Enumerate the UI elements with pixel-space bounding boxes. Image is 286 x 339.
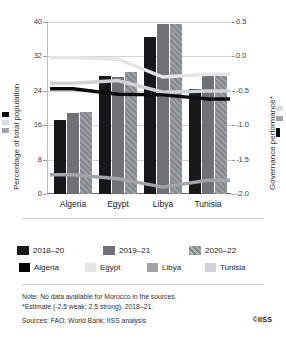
lines-layer — [48, 22, 232, 194]
x-label-tunisia: Tunisia — [188, 199, 228, 209]
left-tick-8: 8 — [16, 156, 42, 164]
legend-bars: 2018–20 2019–21 2020–22 — [0, 246, 286, 255]
tick-dash — [43, 194, 47, 195]
legend-swatch-egypt-icon — [85, 263, 96, 272]
legend-item-egypt[interactable]: Egypt — [85, 263, 147, 272]
footer: Note: No data available for Morocco in t… — [22, 292, 272, 326]
legend-swatch-libya-icon — [147, 263, 158, 272]
left-tick-24: 24 — [16, 87, 42, 95]
left-tick-32: 32 — [16, 52, 42, 60]
legend-label-algeria: Algeria — [34, 263, 59, 272]
legend-item-algeria[interactable]: Algeria — [19, 263, 85, 272]
legend-item-2018-20[interactable]: 2018–20 — [17, 246, 103, 255]
legend-item-libya[interactable]: Libya — [147, 263, 205, 272]
left-axis-title: Percentage of total population — [12, 84, 21, 190]
legend-item-2019-21[interactable]: 2019–21 — [103, 246, 189, 255]
legend-divider-bottom — [22, 284, 264, 285]
legend-swatch-algeria-icon — [19, 263, 30, 272]
footnote-note: Note: No data available for Morocco in t… — [22, 292, 272, 302]
line-egypt — [50, 58, 230, 77]
mini-swatch-4 — [276, 106, 283, 111]
tick-dash — [231, 194, 235, 195]
legend-divider-top — [22, 218, 264, 219]
left-tick-0: 0 — [16, 190, 42, 198]
right-tick-neg-1-0: -1.0 — [236, 121, 266, 129]
right-tick-neg-2-0: -2.0 — [236, 190, 266, 198]
legend-label-tunisia: Tunisia — [220, 263, 246, 272]
mini-swatch-5 — [276, 116, 283, 121]
sources-text: Sources: FAO; World Bank; IISS analysis — [22, 317, 146, 324]
legend-swatch-tunisia-icon — [205, 263, 216, 272]
legend-item-tunisia[interactable]: Tunisia — [205, 263, 267, 272]
mini-swatch-3 — [2, 128, 9, 133]
legend-label-2020-22: 2020–22 — [205, 246, 236, 255]
legend-swatch-2018-20-icon — [17, 246, 29, 255]
footnote-estimate: *Estimate (-2.5 weak; 2.5 strong), 2018–… — [22, 302, 272, 312]
legend-label-2019-21: 2019–21 — [119, 246, 150, 255]
mini-swatch-6 — [276, 128, 280, 137]
right-tick-neg-0-5: -0.5 — [236, 87, 266, 95]
chart-page: Percentage of total population Governanc… — [0, 0, 286, 339]
x-label-egypt: Egypt — [98, 199, 138, 209]
legend-label-libya: Libya — [162, 263, 181, 272]
right-tick-neg-1-5: -1.5 — [236, 156, 266, 164]
line-libya — [50, 175, 230, 187]
left-tick-40: 40 — [16, 18, 42, 26]
footnote-sources: Sources: FAO; World Bank; IISS analysis — [22, 316, 272, 326]
mini-swatch-2 — [2, 120, 9, 125]
plot-area: Percentage of total population Governanc… — [0, 0, 286, 232]
mini-swatch-1 — [2, 112, 9, 117]
right-tick-0-5: 0.5 — [236, 18, 266, 26]
legend-lines: Algeria Egypt Libya Tunisia — [0, 263, 286, 272]
right-tick-0-0: 0.0 — [236, 52, 266, 60]
iiss-credit: ©IISS — [253, 316, 272, 323]
legend-label-2018-20: 2018–20 — [33, 246, 64, 255]
legend-item-2020-22[interactable]: 2020–22 — [189, 246, 269, 255]
plot-canvas — [47, 22, 231, 194]
legend-swatch-2019-21-icon — [103, 246, 115, 255]
legend-label-egypt: Egypt — [100, 263, 120, 272]
x-label-algeria: Algeria — [53, 199, 93, 209]
x-label-libya: Libya — [143, 199, 183, 209]
left-tick-16: 16 — [16, 121, 42, 129]
legend-swatch-2020-22-icon — [189, 246, 201, 255]
